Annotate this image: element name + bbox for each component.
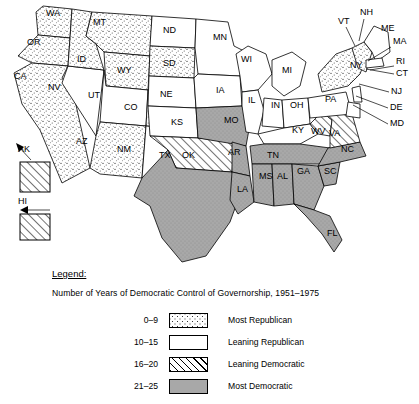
state-label-NM: NM	[117, 144, 131, 154]
legend-label-leaning_democratic: Leaning Democratic	[208, 359, 304, 369]
state-label-LA: LA	[237, 184, 248, 194]
legend-swatch-leaning_democratic	[169, 357, 208, 372]
legend-range-most_republican: 0–9	[104, 315, 169, 325]
state-label-TN: TN	[267, 150, 279, 160]
state-label-NE: NE	[160, 89, 173, 99]
leader-line-NJ	[359, 84, 389, 92]
state-label-MI: MI	[282, 65, 292, 75]
legend-swatch-leaning_republican	[169, 335, 208, 350]
legend-heading: Legend:	[52, 268, 392, 279]
legend-subtitle: Number of Years of Democratic Control of…	[52, 288, 392, 298]
state-label-MS: MS	[259, 171, 273, 181]
state-label-AR: AR	[228, 147, 241, 157]
state-label-WV: WV	[311, 126, 326, 136]
legend-row-leaning_republican: 10–15Leaning Republican	[104, 331, 392, 353]
state-TN[interactable]	[250, 144, 330, 164]
state-label-UT: UT	[88, 90, 100, 100]
state-label-IL: IL	[248, 95, 256, 105]
state-label-TX: TX	[159, 150, 171, 160]
state-label-IN: IN	[271, 100, 280, 110]
state-label-NC: NC	[341, 144, 354, 154]
state-label-WI: WI	[241, 54, 252, 64]
state-MD-DE-shape[interactable]	[346, 102, 360, 118]
legend-row-most_democratic: 21–25Most Democratic	[104, 375, 392, 397]
legend-range-leaning_republican: 10–15	[104, 337, 169, 347]
state-label-KS: KS	[171, 117, 183, 127]
legend-row-most_republican: 0–9Most Republican	[104, 309, 392, 331]
callout-label-HI: HI	[18, 196, 27, 206]
legend-swatch-most_republican	[169, 313, 208, 328]
state-label-WA: WA	[46, 8, 60, 18]
state-label-IA: IA	[216, 85, 225, 95]
state-label-SC: SC	[324, 166, 337, 176]
legend: Legend: Number of Years of Democratic Co…	[52, 268, 392, 397]
callout-label-NH: NH	[360, 7, 373, 17]
us-governorship-map-figure: WAORCANVIDMTWYUTAZCONMNDSDNEKSOKTXMNIAMO…	[0, 0, 419, 404]
state-label-GA: GA	[297, 166, 310, 176]
callout-label-CT: CT	[396, 68, 408, 78]
callout-label-DE: DE	[390, 102, 403, 112]
state-label-AZ: AZ	[76, 136, 88, 146]
state-label-AL: AL	[277, 171, 288, 181]
legend-label-most_republican: Most Republican	[208, 315, 292, 325]
state-label-FL: FL	[327, 228, 338, 238]
callout-label-VT: VT	[338, 16, 350, 26]
state-WI[interactable]	[236, 46, 272, 92]
callout-label-NJ: NJ	[391, 86, 402, 96]
state-label-CO: CO	[124, 102, 138, 112]
legend-rows: 0–9Most Republican10–15Leaning Republica…	[104, 309, 392, 397]
legend-range-most_democratic: 21–25	[104, 381, 169, 391]
legend-label-most_democratic: Most Democratic	[208, 381, 292, 391]
state-label-VA: VA	[329, 128, 340, 138]
state-label-PA: PA	[325, 94, 336, 104]
callout-label-RI: RI	[396, 56, 405, 66]
state-label-MN: MN	[213, 32, 227, 42]
state-NJ-shape[interactable]	[352, 86, 362, 102]
state-label-ND: ND	[163, 25, 176, 35]
state-label-OR: OR	[27, 37, 41, 47]
state-label-SD: SD	[163, 58, 176, 68]
legend-label-leaning_republican: Leaning Republican	[208, 337, 304, 347]
state-label-NY: NY	[350, 60, 363, 70]
state-label-WY: WY	[117, 65, 132, 75]
state-label-KY: KY	[292, 125, 304, 135]
state-OR[interactable]	[18, 35, 70, 66]
state-label-OH: OH	[290, 100, 304, 110]
state-label-MT: MT	[93, 17, 106, 27]
state-MA-shape[interactable]	[366, 58, 384, 68]
state-label-OK: OK	[182, 150, 195, 160]
legend-swatch-most_democratic	[169, 379, 208, 394]
legend-range-leaning_democratic: 16–20	[104, 359, 169, 369]
leader-line-CT	[366, 69, 394, 74]
hawaii-inset[interactable]	[20, 206, 50, 240]
legend-row-leaning_democratic: 16–20Leaning Democratic	[104, 353, 392, 375]
state-label-ID: ID	[77, 54, 87, 64]
callout-label-ME: ME	[381, 23, 395, 33]
leader-line-NH	[359, 19, 364, 41]
leader-line-VT	[346, 27, 355, 46]
state-label-NV: NV	[48, 82, 61, 92]
callout-label-MD: MD	[390, 118, 404, 128]
callout-label-MA: MA	[393, 36, 407, 46]
state-label-MO: MO	[224, 115, 239, 125]
state-label-CA: CA	[14, 71, 27, 81]
state-KY[interactable]	[258, 124, 318, 144]
